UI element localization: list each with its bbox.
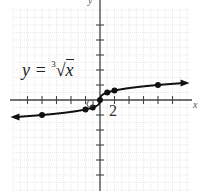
origin-label: O: [86, 97, 94, 109]
radicand: x: [66, 59, 74, 80]
right-arrow-icon: [181, 79, 190, 86]
data-point: [104, 90, 110, 96]
equation-prefix: y =: [22, 60, 51, 80]
x-tick-label-2: 2: [109, 102, 117, 120]
y-axis-label: y: [87, 0, 93, 6]
data-point: [155, 82, 161, 88]
left-arrow-icon: [10, 114, 19, 121]
data-point: [97, 97, 103, 103]
cube-root-graph: O y x: [0, 0, 199, 191]
x-axis-label: x: [192, 99, 198, 110]
equation-label: y = 3√x: [22, 60, 74, 81]
data-point: [112, 88, 118, 94]
root-index: 3: [51, 59, 56, 69]
data-point: [39, 112, 45, 118]
radical-sign-icon: √: [56, 60, 66, 80]
